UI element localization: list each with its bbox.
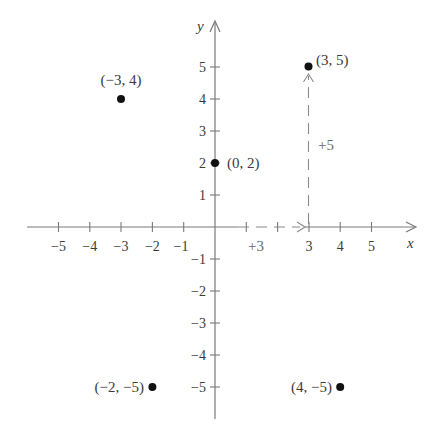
y-tick-label: 3	[199, 124, 206, 139]
x-axis-label: x	[406, 235, 414, 251]
x-tick-label: −4	[82, 239, 97, 254]
y-tick-label: −2	[191, 284, 206, 299]
point-label: (−3, 4)	[101, 72, 142, 89]
point-label: (−2, −5)	[95, 379, 144, 396]
x-tick-label: −5	[51, 239, 66, 254]
y-tick-label: 2	[199, 156, 206, 171]
y-tick-label: 4	[199, 92, 206, 107]
x-tick-label: 3	[306, 239, 313, 254]
point-labels: (−3, 4) (0, 2) (3, 5) (−2, −5) (4, −5)	[95, 52, 349, 396]
point-label: (0, 2)	[227, 155, 260, 172]
x-tick-label: 5	[368, 239, 375, 254]
move-label-plus-5: +5	[318, 137, 334, 153]
y-tick-label: −3	[191, 316, 206, 331]
coordinate-plane: −5 −4 −3 −2 −1 3 4 5 5 4 3 2 1 −1 −2 −3 …	[0, 0, 439, 432]
y-tick-label: −1	[191, 252, 206, 267]
vertical-move-arrow	[304, 74, 314, 224]
y-tick-label: −4	[191, 348, 206, 363]
y-tick-label: 1	[199, 188, 206, 203]
y-tick-label: 5	[199, 60, 206, 75]
point-neg3-4	[117, 95, 125, 103]
x-tick-label: 4	[337, 239, 344, 254]
point-3-5	[305, 63, 313, 71]
y-tick-label: −5	[191, 380, 206, 395]
x-tick-label: −3	[114, 239, 129, 254]
x-tick-label: −1	[174, 239, 189, 254]
x-axis	[27, 222, 416, 232]
y-axis	[210, 21, 220, 419]
point-4-neg5	[336, 383, 344, 391]
point-neg2-neg5	[148, 383, 156, 391]
x-tick-labels: −5 −4 −3 −2 −1 3 4 5	[51, 239, 375, 254]
y-axis-label: y	[195, 18, 204, 34]
move-label-plus-3: +3	[248, 238, 264, 254]
point-0-2	[211, 159, 219, 167]
point-label: (3, 5)	[316, 52, 349, 69]
x-tick-label: −2	[145, 239, 160, 254]
point-label: (4, −5)	[291, 379, 332, 396]
